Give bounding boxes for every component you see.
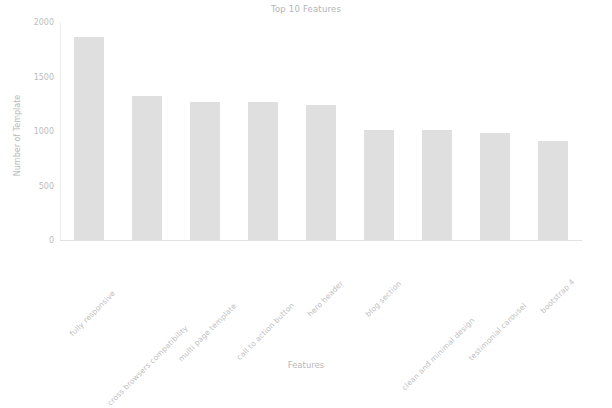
plot-area [60,22,582,240]
x-axis-tick-text: call to action button [235,301,296,362]
bar [364,130,394,240]
y-axis-tick-0: 0 [10,236,54,245]
bar [132,96,162,240]
x-axis-tick-label: blog section [397,246,436,285]
y-axis-title: Number of Template [13,71,22,201]
x-axis-title: Features [0,360,612,370]
x-axis-tick-text: fully responsive [68,289,117,338]
x-axis-tick-text: blog section [364,279,403,318]
bar [538,141,568,240]
x-axis-tick-label: fully responsive [111,246,160,295]
x-axis-line [60,240,582,241]
y-axis-tick-2000: 2000 [10,18,54,27]
chart-title: Top 10 Features [0,4,612,14]
x-axis-tick-text: clean and minimal design [400,316,476,392]
bar [422,130,452,240]
bar [480,133,510,240]
bar [74,37,104,240]
x-axis-tick-label: clean and minimal design [470,246,546,322]
bar [306,105,336,240]
bar [248,102,278,240]
bar [190,102,220,240]
